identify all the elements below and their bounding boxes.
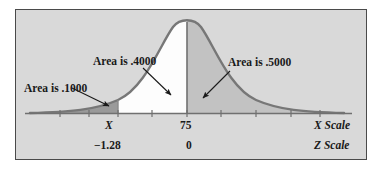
annotation-area-4000: Area is .4000 [93,56,156,68]
z-scale-label-text: Z Scale [314,139,349,151]
x-axis-tick-label-x: X [105,120,113,132]
z-scale-label: Z Scale [314,140,349,152]
annotation-area-1000: Area is .1000 [24,83,87,95]
z-axis-tick-label-minus-1-28: −1.28 [94,140,121,152]
annotation-area-5000: Area is .5000 [228,57,291,69]
x-axis-tick-label-75: 75 [180,120,192,132]
normal-distribution-figure: Area is .1000 Area is .4000 Area is .500… [0,0,382,171]
x-scale-label: X Scale [314,120,350,132]
x-scale-label-text: X Scale [314,119,350,131]
z-axis-tick-label-0: 0 [186,140,192,152]
